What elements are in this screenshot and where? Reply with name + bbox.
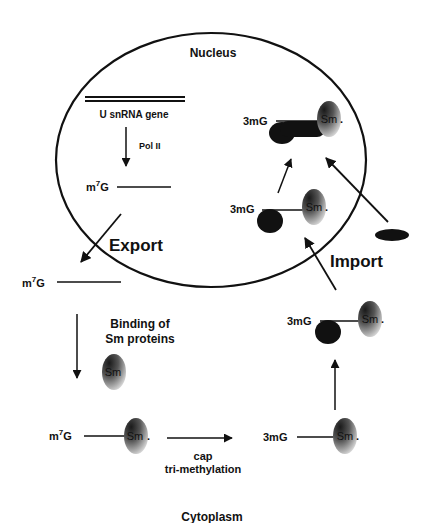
tmg-sm-complex-nuclear-top: 3mG Sm .: [243, 101, 343, 144]
svg-text:m7G: m7G: [86, 179, 109, 193]
svg-text:m7G: m7G: [22, 275, 45, 289]
svg-text:.: .: [340, 113, 343, 125]
tmg-sm-receptor-complex-nuclear: 3mG Sm .: [230, 189, 328, 233]
svg-text:.: .: [381, 313, 384, 325]
import-receptor: [375, 229, 409, 241]
u-snrna-gene: [85, 97, 185, 101]
svg-text:Sm: Sm: [337, 430, 354, 442]
svg-text:Sm: Sm: [321, 113, 338, 125]
svg-text:.: .: [325, 201, 328, 213]
snrna-biogenesis-diagram: Nucleus U snRNA gene Pol II m7G Export m…: [0, 0, 433, 523]
svg-text:.: .: [147, 430, 150, 442]
svg-text:3mG: 3mG: [243, 115, 267, 127]
svg-text:m7G: m7G: [49, 428, 72, 442]
svg-text:Sm: Sm: [127, 430, 144, 442]
nucleus-membrane: [56, 33, 366, 287]
binding-label-line1: Binding of: [110, 317, 170, 331]
export-label: Export: [109, 236, 163, 255]
cap-label-line1: cap: [194, 450, 213, 462]
svg-text:Sm: Sm: [105, 366, 122, 378]
receptor-recycle-arrow: [326, 158, 388, 222]
nucleus-label: Nucleus: [190, 46, 237, 60]
svg-text:.: .: [356, 430, 359, 442]
dissociation-arrow: [278, 159, 291, 193]
svg-text:3mG: 3mG: [230, 203, 254, 215]
svg-text:Sm: Sm: [306, 201, 323, 213]
tmg-sm-receptor-complex-cytoplasm: 3mG Sm .: [287, 301, 384, 344]
m7g-rna-cytoplasmic: m7G: [22, 275, 121, 289]
tmg-sm-complex: 3mG Sm .: [263, 418, 359, 454]
gene-label: U snRNA gene: [99, 109, 169, 120]
m7g-sm-complex: m7G Sm .: [49, 418, 150, 454]
import-label: Import: [330, 252, 383, 271]
svg-text:Sm: Sm: [362, 313, 379, 325]
pol-ii-label: Pol II: [139, 141, 161, 151]
cap-label-line2: tri-methylation: [165, 463, 242, 475]
svg-text:3mG: 3mG: [287, 315, 311, 327]
m7g-rna-nuclear: m7G: [86, 179, 171, 193]
binding-label-line2: Sm proteins: [105, 332, 175, 346]
free-sm-protein: Sm: [102, 354, 126, 390]
cytoplasm-label: Cytoplasm: [181, 510, 242, 523]
svg-text:3mG: 3mG: [263, 431, 287, 443]
